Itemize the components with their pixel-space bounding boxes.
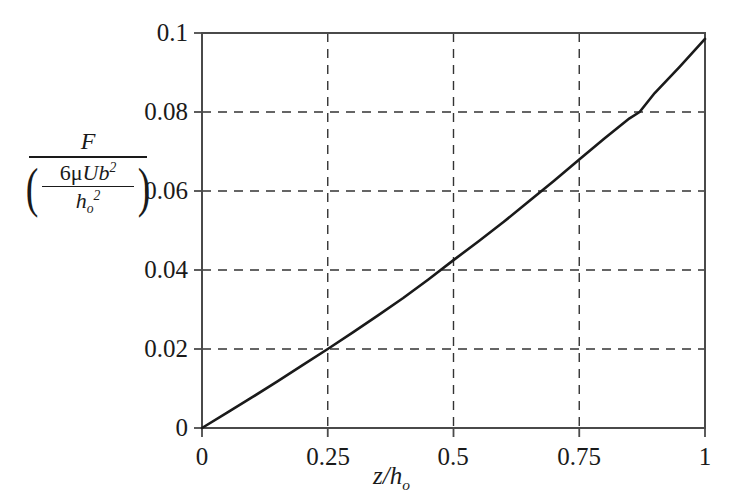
h-exponent: 2 [94, 188, 101, 203]
coefficient-six: 6 [60, 160, 71, 185]
y-tick-label: 0.08 [118, 99, 188, 124]
paren-close: ) [138, 161, 151, 215]
inner-fraction: 6μUb2 ho2 [42, 161, 134, 215]
y-tick-label: 0.1 [118, 20, 188, 45]
y-tick-label: 0.02 [118, 336, 188, 361]
inner-fraction-denominator: ho2 [76, 187, 101, 214]
y-tick-label: 0.04 [118, 257, 188, 282]
x-axis-label-text: z/ho [373, 462, 410, 490]
h-subscript: o [402, 476, 410, 493]
gridlines-group [202, 33, 705, 428]
length-b: b [98, 160, 109, 185]
mu-symbol: μ [71, 160, 83, 185]
y-axis-label-denominator: ( 6μUb2 ho2 ) [23, 158, 153, 215]
y-tick-label: 0 [118, 415, 188, 440]
paren-open: ( [26, 161, 39, 215]
coordinate-z: z [373, 462, 383, 489]
y-axis-label-numerator: F [71, 128, 106, 156]
height-h: h [76, 188, 87, 213]
plot-svg [0, 0, 735, 502]
x-axis-label: z/ho [0, 462, 735, 490]
divide-slash: / [383, 462, 390, 489]
h-subscript: o [87, 202, 94, 217]
velocity-U: U [83, 160, 99, 185]
b-exponent: 2 [109, 159, 116, 174]
height-h: h [390, 462, 403, 489]
tickmarks-group [194, 33, 705, 437]
inner-fraction-numerator: 6μUb2 [56, 161, 121, 186]
y-axis-label: F ( 6μUb2 ho2 ) [8, 128, 168, 215]
chart-figure: 0.1 0.08 0.06 0.04 0.02 0 0 0.25 0.5 0.7… [0, 0, 735, 502]
